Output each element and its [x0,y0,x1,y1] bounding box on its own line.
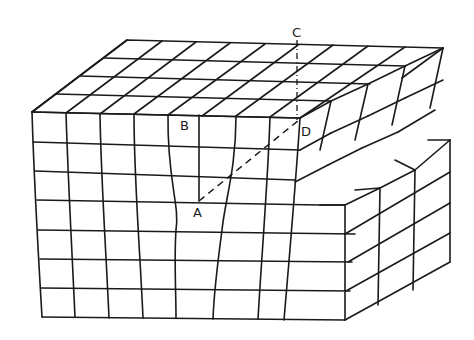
block-diagram [0,0,474,340]
lower-block-grid [320,140,450,320]
line-a-d [199,120,299,201]
label-a: A [193,206,202,219]
label-b: B [180,119,189,132]
label-d: D [301,125,311,138]
top-face-grid [32,40,443,182]
label-c: C [292,26,301,39]
diagram-canvas: A B C D [0,0,474,340]
